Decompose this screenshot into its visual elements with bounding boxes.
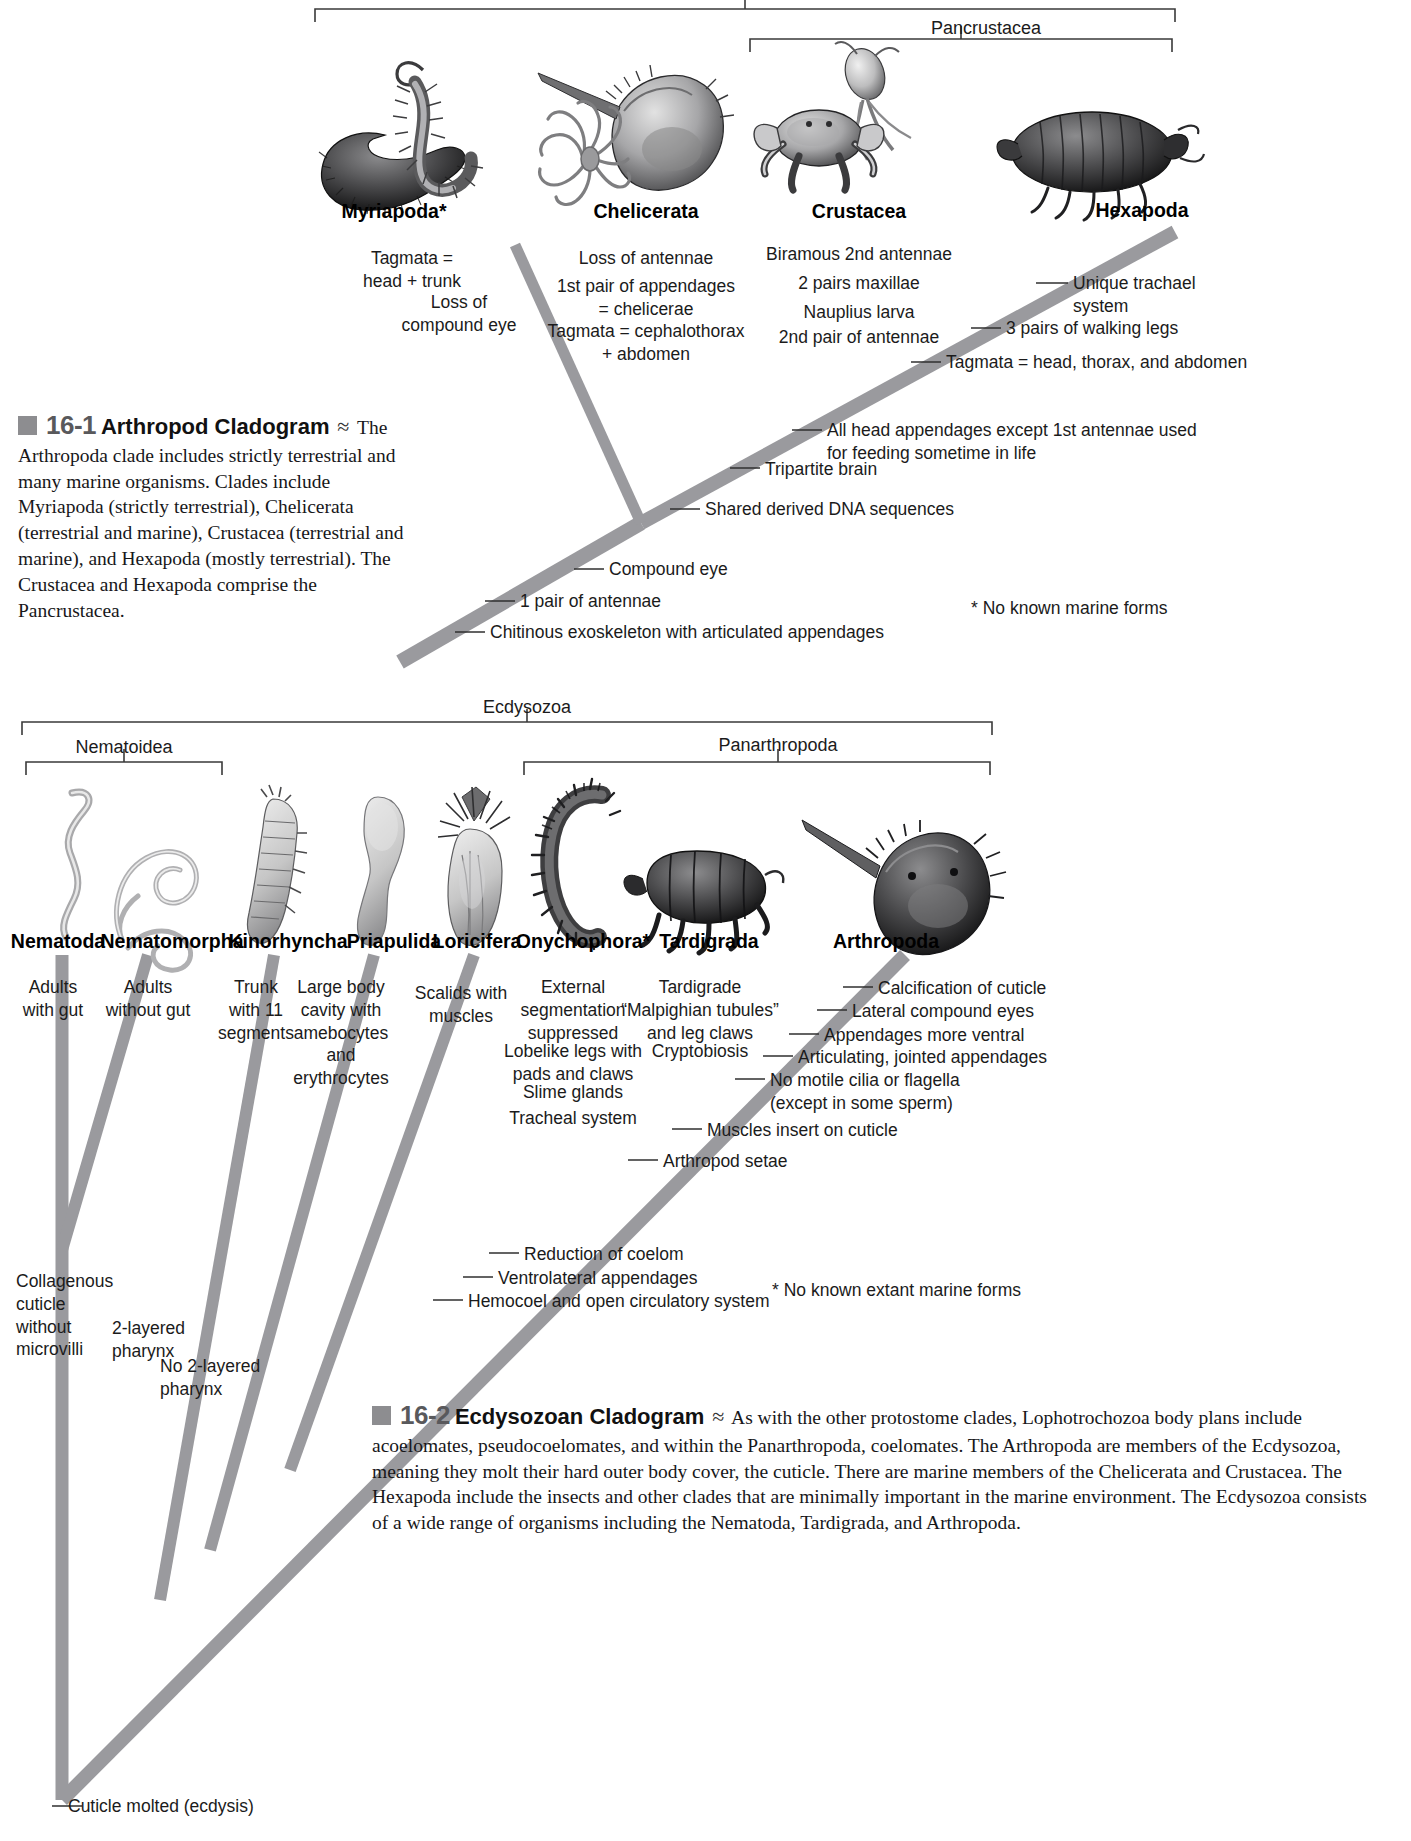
clade-label-pancrustacea: Pancrustacea [931, 18, 1041, 39]
synapomorphy-node-arthropod-setae: Arthropod setae [663, 1150, 788, 1173]
onychophora-illustration [532, 779, 620, 949]
taxon-label-chelicerata: Chelicerata [593, 200, 698, 223]
clade-label-nematoidea: Nematoidea [75, 737, 172, 758]
synapomorphy-crustacea-maxillae: 2 pairs maxillae [798, 272, 920, 295]
nematoda-illustration [64, 792, 89, 937]
taxon-label-hexapoda: Hexapoda [1095, 199, 1188, 222]
footnote-fig2: * No known extant marine forms [772, 1280, 1021, 1301]
kinorhyncha-illustration [247, 785, 307, 943]
synapomorphy-onychophora-lobelike-legs: Lobelike legs with pads and claws [504, 1040, 642, 1086]
chelicerata-illustration [538, 65, 734, 204]
synapomorphy-onychophora-segmentation: External segmentation suppressed [520, 976, 625, 1044]
synapomorphy-onychophora-slime-glands: Slime glands [523, 1081, 623, 1104]
synapomorphy-arthropoda-jointed-appendages: Articulating, jointed appendages [798, 1046, 1047, 1069]
synapomorphy-arthropoda-ventral-appendages: Appendages more ventral [824, 1024, 1024, 1047]
taxon-label-crustacea: Crustacea [812, 200, 906, 223]
synapomorphy-chelicerata-tagmata: Tagmata = cephalothorax + abdomen [547, 320, 744, 366]
fig2-branch-kinorhyncha [160, 955, 274, 1600]
synapomorphy-loricifera-scalids: Scalids with muscles [415, 982, 507, 1028]
synapomorphy-priapulida-body-cavity: Large body cavity with amebocytes and er… [293, 976, 388, 1090]
synapomorphy-arthropoda-no-cilia: No motile cilia or flagella (except in s… [770, 1069, 960, 1115]
synapomorphy-tardigrada-malpighian: Tardigrade “Malpighian tubules” and leg … [621, 976, 779, 1044]
footnote-fig1: * No known marine forms [971, 598, 1167, 619]
synapomorphy-node-collagenous-cuticle: Collagenous cuticle without microvilli [16, 1270, 113, 1361]
loricifera-illustration [438, 787, 510, 945]
synapomorphy-arthropoda-compound-eyes: Lateral compound eyes [852, 1000, 1034, 1023]
synapomorphy-hexapoda-walking-legs: 3 pairs of walking legs [1006, 317, 1178, 340]
taxon-label-priapulida: Priapulida [347, 930, 441, 953]
taxon-label-onychophora: Onychophora* [516, 930, 650, 953]
synapomorphy-node-chitinous-exoskeleton: Chitinous exoskeleton with articulated a… [490, 621, 884, 644]
synapomorphy-myriapoda-compound-eye: Loss of compound eye [402, 291, 517, 337]
taxon-label-nematomorpha: Nematomorpha [100, 930, 243, 953]
caption-tilde-icon-2: ≈ [709, 1404, 727, 1429]
synapomorphy-node-dna-sequences: Shared derived DNA sequences [705, 498, 954, 521]
synapomorphy-hexapoda-tagmata: Tagmata = head, thorax, and abdomen [946, 351, 1247, 374]
caption-body-16-1: The Arthropoda clade includes strictly t… [18, 417, 403, 621]
caption-square-icon-2 [372, 1406, 391, 1425]
synapomorphy-nematomorpha-gut: Adults without gut [106, 976, 191, 1022]
sea-spider [540, 102, 630, 205]
synapomorphy-node-tripartite-brain: Tripartite brain [765, 458, 877, 481]
synapomorphy-node-ventrolateral-appendages: Ventrolateral appendages [498, 1267, 697, 1290]
synapomorphy-node-hemocoel: Hemocoel and open circulatory system [468, 1290, 770, 1313]
myriapoda-illustration [319, 63, 483, 216]
fig1-bracket-all [315, 0, 1175, 22]
caption-figure-16-2: 16-2 Ecdysozoan Cladogram ≈ As with the … [372, 1398, 1382, 1536]
synapomorphy-chelicerata-antennae: Loss of antennae [579, 247, 713, 270]
synapomorphy-kinorhyncha-trunk: Trunk with 11 segments [218, 976, 294, 1044]
synapomorphy-node-cuticle-molted: Cuticle molted (ecdysis) [68, 1795, 254, 1818]
arthropod-ecdysozoan-cladogram-figure: Pancrustacea Myriapoda* Chelicerata Crus… [0, 0, 1411, 1841]
synapomorphy-crustacea-nauplius: Nauplius larva [804, 301, 915, 324]
synapomorphy-node-head-appendages: All head appendages except 1st antennae … [827, 419, 1197, 465]
synapomorphy-node-reduction-coelom: Reduction of coelom [524, 1243, 684, 1266]
synapomorphy-chelicerata-chelicerae: 1st pair of appendages = chelicerae [557, 275, 735, 321]
taxon-label-tardigrada: Tardigrada [659, 930, 758, 953]
synapomorphy-nematoda-gut: Adults with gut [23, 976, 83, 1022]
crustacea-illustration [754, 42, 911, 190]
clade-label-panarthropoda: Panarthropoda [718, 735, 837, 756]
caption-title-16-2: Ecdysozoan Cladogram [455, 1404, 704, 1429]
synapomorphy-crustacea-biramous: Biramous 2nd antennae [766, 243, 952, 266]
synapomorphy-node-muscles-cuticle: Muscles insert on cuticle [707, 1119, 898, 1142]
priapulida-illustration [357, 797, 404, 945]
synapomorphy-arthropoda-calcification: Calcification of cuticle [878, 977, 1046, 1000]
synapomorphy-hexapoda-trachael: Unique trachael system [1073, 272, 1196, 318]
synapomorphy-node-compound-eye: Compound eye [609, 558, 728, 581]
caption-tilde-icon: ≈ [334, 414, 352, 439]
synapomorphy-node-no-2-layered-pharynx: No 2-layered pharynx [160, 1355, 260, 1401]
synapomorphy-tardigrada-cryptobiosis: Cryptobiosis [652, 1040, 748, 1063]
caption-number-16-2: 16-2 [400, 1400, 450, 1430]
taxon-label-nematoda: Nematoda [11, 930, 105, 953]
horseshoe-crab [538, 65, 734, 190]
caption-square-icon [18, 416, 37, 435]
taxon-label-arthropoda: Arthropoda [833, 930, 939, 953]
taxon-label-kinorhyncha: Kinorhyncha [228, 930, 347, 953]
caption-title-16-1: Arthropod Cladogram [101, 414, 330, 439]
clade-label-ecdysozoa: Ecdysozoa [483, 697, 571, 718]
centipede [393, 63, 483, 198]
caption-figure-16-1: 16-1 Arthropod Cladogram ≈ The Arthropod… [18, 408, 418, 624]
synapomorphy-myriapoda-tagmata: Tagmata = head + trunk [363, 247, 461, 293]
taxon-label-loricifera: Loricifera [433, 930, 522, 953]
caption-number-16-1: 16-1 [46, 410, 96, 440]
synapomorphy-onychophora-tracheal-system: Tracheal system [509, 1107, 637, 1130]
synapomorphy-node-one-pair-antennae: 1 pair of antennae [520, 590, 661, 613]
taxon-label-myriapoda: Myriapoda* [341, 200, 446, 223]
synapomorphy-crustacea-2nd-antennae: 2nd pair of antennae [779, 326, 940, 349]
copepod [835, 42, 911, 160]
crab [754, 110, 884, 190]
